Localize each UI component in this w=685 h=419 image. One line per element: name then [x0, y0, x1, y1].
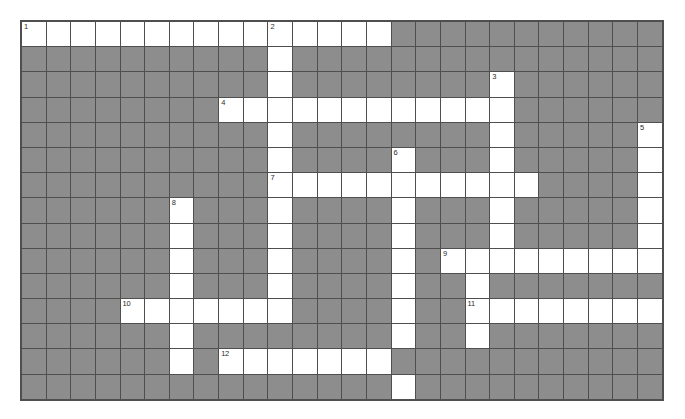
crossword-cell-open[interactable]	[268, 299, 293, 324]
crossword-cell-open[interactable]	[169, 273, 194, 298]
crossword-cell-open[interactable]	[588, 299, 613, 324]
crossword-cell-open[interactable]	[638, 173, 663, 198]
crossword-cell-open[interactable]	[613, 299, 638, 324]
crossword-cell-open[interactable]	[588, 248, 613, 273]
crossword-cell-open[interactable]	[514, 248, 539, 273]
crossword-cell-open[interactable]	[145, 299, 170, 324]
crossword-cell-open[interactable]	[638, 147, 663, 172]
crossword-cell-open[interactable]	[440, 97, 465, 122]
crossword-cell-open[interactable]	[391, 173, 416, 198]
crossword-cell-open[interactable]	[194, 22, 219, 47]
crossword-cell-open[interactable]	[293, 97, 318, 122]
crossword-cell-open[interactable]	[539, 248, 564, 273]
crossword-cell-open[interactable]	[638, 299, 663, 324]
crossword-cell-open[interactable]	[391, 198, 416, 223]
crossword-cell-open[interactable]	[564, 299, 589, 324]
crossword-cell-open[interactable]	[638, 223, 663, 248]
crossword-cell-open[interactable]	[268, 97, 293, 122]
crossword-cell-open[interactable]	[317, 349, 342, 374]
crossword-cell-open[interactable]	[465, 273, 490, 298]
crossword-cell-open[interactable]	[638, 198, 663, 223]
crossword-cell-open[interactable]	[490, 198, 515, 223]
crossword-cell-open[interactable]	[293, 173, 318, 198]
crossword-cell-open[interactable]	[465, 173, 490, 198]
crossword-cell-open[interactable]	[219, 299, 244, 324]
crossword-cell-open[interactable]	[120, 22, 145, 47]
crossword-cell-open[interactable]	[293, 22, 318, 47]
crossword-cell-open[interactable]	[514, 173, 539, 198]
crossword-cell-open[interactable]	[514, 299, 539, 324]
crossword-cell-open[interactable]: 4	[219, 97, 244, 122]
crossword-cell-open[interactable]	[416, 97, 441, 122]
crossword-cell-open[interactable]	[391, 223, 416, 248]
crossword-cell-open[interactable]	[169, 349, 194, 374]
crossword-cell-open[interactable]	[243, 349, 268, 374]
crossword-cell-open[interactable]	[268, 273, 293, 298]
crossword-cell-open[interactable]	[46, 22, 71, 47]
crossword-cell-open[interactable]	[268, 349, 293, 374]
crossword-cell-open[interactable]	[268, 198, 293, 223]
crossword-cell-open[interactable]	[268, 122, 293, 147]
crossword-cell-open[interactable]	[366, 97, 391, 122]
crossword-cell-open[interactable]	[465, 324, 490, 349]
crossword-cell-open[interactable]	[169, 22, 194, 47]
crossword-cell-open[interactable]	[145, 22, 170, 47]
crossword-cell-open[interactable]	[465, 248, 490, 273]
crossword-cell-open[interactable]	[71, 22, 96, 47]
crossword-cell-open[interactable]: 7	[268, 173, 293, 198]
crossword-cell-open[interactable]	[440, 173, 465, 198]
crossword-cell-open[interactable]: 12	[219, 349, 244, 374]
crossword-cell-open[interactable]	[613, 248, 638, 273]
crossword-cell-open[interactable]	[169, 223, 194, 248]
crossword-cell-open[interactable]	[169, 324, 194, 349]
crossword-cell-open[interactable]	[169, 299, 194, 324]
crossword-cell-open[interactable]	[219, 22, 244, 47]
crossword-cell-open[interactable]	[539, 299, 564, 324]
crossword-cell-open[interactable]	[342, 97, 367, 122]
crossword-cell-open[interactable]: 5	[638, 122, 663, 147]
crossword-cell-open[interactable]	[490, 97, 515, 122]
crossword-cell-open[interactable]	[391, 97, 416, 122]
crossword-cell-open[interactable]	[342, 349, 367, 374]
crossword-cell-open[interactable]	[317, 97, 342, 122]
crossword-cell-open[interactable]	[342, 173, 367, 198]
crossword-cell-open[interactable]	[95, 22, 120, 47]
crossword-cell-open[interactable]	[317, 22, 342, 47]
crossword-cell-open[interactable]	[317, 173, 342, 198]
crossword-cell-open[interactable]: 6	[391, 147, 416, 172]
crossword-cell-open[interactable]	[391, 248, 416, 273]
crossword-cell-open[interactable]	[366, 349, 391, 374]
crossword-cell-open[interactable]	[638, 248, 663, 273]
crossword-cell-open[interactable]	[366, 173, 391, 198]
crossword-cell-open[interactable]: 2	[268, 22, 293, 47]
crossword-cell-open[interactable]	[564, 248, 589, 273]
crossword-cell-open[interactable]: 10	[120, 299, 145, 324]
crossword-cell-open[interactable]	[268, 147, 293, 172]
crossword-cell-open[interactable]	[391, 324, 416, 349]
crossword-cell-open[interactable]	[243, 299, 268, 324]
crossword-cell-open[interactable]	[243, 22, 268, 47]
crossword-cell-open[interactable]: 8	[169, 198, 194, 223]
crossword-cell-open[interactable]	[243, 97, 268, 122]
crossword-cell-open[interactable]	[391, 374, 416, 399]
crossword-grid[interactable]: 123456789101112	[21, 21, 663, 400]
crossword-cell-open[interactable]	[342, 22, 367, 47]
crossword-cell-open[interactable]	[169, 248, 194, 273]
crossword-cell-open[interactable]	[465, 97, 490, 122]
crossword-cell-open[interactable]	[416, 173, 441, 198]
crossword-cell-open[interactable]	[490, 173, 515, 198]
crossword-cell-open[interactable]	[391, 273, 416, 298]
crossword-cell-open[interactable]: 11	[465, 299, 490, 324]
crossword-cell-open[interactable]: 1	[22, 22, 47, 47]
crossword-cell-open[interactable]	[391, 299, 416, 324]
crossword-cell-open[interactable]	[293, 349, 318, 374]
crossword-cell-open[interactable]	[490, 223, 515, 248]
crossword-cell-open[interactable]	[268, 47, 293, 72]
crossword-cell-open[interactable]: 9	[440, 248, 465, 273]
crossword-cell-open[interactable]	[490, 299, 515, 324]
crossword-cell-open[interactable]	[194, 299, 219, 324]
crossword-cell-open[interactable]	[490, 122, 515, 147]
crossword-cell-open[interactable]: 3	[490, 72, 515, 97]
crossword-cell-open[interactable]	[268, 223, 293, 248]
crossword-cell-open[interactable]	[490, 248, 515, 273]
